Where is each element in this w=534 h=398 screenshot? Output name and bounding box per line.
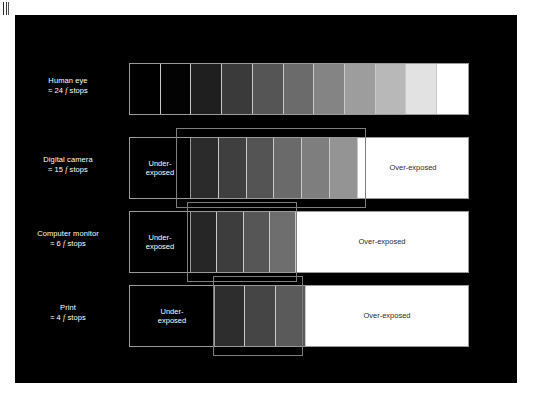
tone-segment (270, 212, 296, 272)
row-title-human-eye: Human eye (15, 76, 121, 86)
stops-word: stops (70, 165, 88, 174)
tone-segment (345, 64, 376, 114)
under-exposed-label: Under-exposed (146, 159, 174, 178)
row-title-print: Print (15, 303, 121, 313)
row-label-print: Print ≈ 4 f stops (15, 303, 121, 323)
row-stops-print: ≈ 4 f stops (15, 313, 121, 323)
tone-segment (253, 64, 284, 114)
row-stops-human-eye: ≈ 24 f stops (15, 86, 121, 96)
tone-segment (376, 64, 407, 114)
tone-segment (406, 64, 437, 114)
exposure-bar-computer-monitor: Under-exposedOver-exposed (129, 211, 469, 273)
page-corner-mark (3, 2, 10, 15)
exposure-bar-human-eye (129, 63, 469, 115)
stops-word: stops (67, 239, 85, 248)
stops-value: 15 (54, 165, 63, 174)
tone-segment (330, 138, 358, 198)
tone-segment (302, 138, 330, 198)
tone-segment (276, 286, 306, 346)
tone-segment (274, 138, 302, 198)
tone-segment (222, 64, 253, 114)
tone-segment (314, 64, 345, 114)
row-print: Print ≈ 4 f stops Under-exposedOver-expo… (15, 285, 517, 347)
tone-segment (247, 138, 275, 198)
row-title-digital-camera: Digital camera (15, 155, 121, 165)
tone-segment (245, 286, 275, 346)
dynamic-range-figure: Human eye ≈ 24 f stops Digital camera ≈ … (15, 15, 517, 383)
tone-segment (191, 212, 217, 272)
under-exposed-zone: Under-exposed (130, 286, 215, 346)
exposure-bar-digital-camera: Under-exposedOver-exposed (129, 137, 469, 199)
exposure-bar-print: Under-exposedOver-exposed (129, 285, 469, 347)
tone-segment (217, 212, 243, 272)
tone-segment (437, 64, 468, 114)
tone-segment (244, 212, 270, 272)
row-label-computer-monitor: Computer monitor ≈ 6 f stops (15, 229, 121, 249)
tone-segment (215, 286, 245, 346)
row-title-computer-monitor: Computer monitor (15, 229, 121, 239)
row-stops-computer-monitor: ≈ 6 f stops (15, 239, 121, 249)
under-exposed-zone: Under-exposed (130, 212, 191, 272)
over-exposed-zone: Over-exposed (358, 138, 468, 198)
tone-segment (284, 64, 315, 114)
tone-segment (219, 138, 247, 198)
under-exposed-zone: Under-exposed (130, 138, 191, 198)
over-exposed-zone: Over-exposed (306, 286, 468, 346)
under-exposed-label: Under-exposed (146, 233, 174, 252)
row-computer-monitor: Computer monitor ≈ 6 f stops Under-expos… (15, 211, 517, 273)
row-digital-camera: Digital camera ≈ 15 f stops Under-expose… (15, 137, 517, 199)
tone-segment (161, 64, 192, 114)
tone-segment (130, 64, 161, 114)
row-stops-digital-camera: ≈ 15 f stops (15, 165, 121, 175)
row-label-digital-camera: Digital camera ≈ 15 f stops (15, 155, 121, 175)
stops-word: stops (70, 86, 88, 95)
over-exposed-zone: Over-exposed (296, 212, 468, 272)
row-human-eye: Human eye ≈ 24 f stops (15, 63, 517, 115)
tone-segment (191, 138, 219, 198)
stops-value: 24 (54, 86, 63, 95)
stops-word: stops (67, 313, 85, 322)
tone-segment (191, 64, 222, 114)
row-label-human-eye: Human eye ≈ 24 f stops (15, 76, 121, 96)
under-exposed-label: Under-exposed (158, 307, 186, 326)
